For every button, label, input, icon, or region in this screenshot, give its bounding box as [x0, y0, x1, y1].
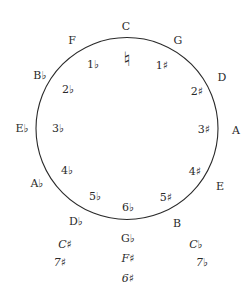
circle-of-fifths-diagram: C ♮ G 1♯ D 2♯ A 3♯ E 4♯ B 5♯ F 1♭ B♭ 2♭ …: [0, 0, 252, 297]
signature-3-flats: 3♭: [52, 122, 64, 135]
key-label-b: B: [173, 217, 181, 230]
signature-6-sharps: 6♯: [122, 272, 134, 285]
signature-6-flats: 6♭: [122, 201, 134, 214]
signature-2-flats: 2♭: [62, 83, 74, 96]
key-label-d-flat: D♭: [69, 215, 83, 228]
signature-4-flats: 4♭: [61, 164, 73, 177]
key-label-a: A: [231, 124, 241, 137]
key-label-g-flat: G♭: [121, 232, 135, 245]
signature-5-sharps: 5♯: [160, 191, 172, 204]
signature-3-sharps: 3♯: [198, 123, 210, 136]
key-label-a-flat: A♭: [29, 177, 43, 190]
key-label-f: F: [68, 34, 76, 47]
signature-7-sharps: 7♯: [54, 256, 66, 269]
signature-1-flat: 1♭: [87, 58, 99, 71]
key-label-d: D: [218, 71, 227, 84]
key-label-f-sharp: F♯: [121, 252, 135, 265]
natural-sign-icon: ♮: [123, 47, 130, 71]
key-label-e: E: [216, 180, 224, 193]
key-label-c-sharp: C♯: [58, 238, 72, 251]
key-label-e-flat: E♭: [15, 122, 28, 135]
key-label-b-flat: B♭: [33, 69, 46, 82]
signature-1-sharp: 1♯: [156, 59, 168, 72]
key-label-g: G: [174, 34, 183, 47]
signature-5-flats: 5♭: [89, 190, 101, 203]
signature-7-flats: 7♭: [196, 256, 208, 269]
signature-2-sharps: 2♯: [191, 85, 203, 98]
key-label-c-flat: C♭: [189, 238, 203, 251]
signature-4-sharps: 4♯: [189, 165, 201, 178]
key-label-c: C: [122, 20, 130, 33]
